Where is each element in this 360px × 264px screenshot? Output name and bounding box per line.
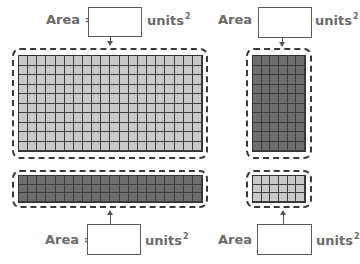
grid-cell — [165, 185, 174, 194]
grid-cell — [193, 104, 202, 114]
answer-box-top-left[interactable] — [88, 7, 142, 37]
grid-cell — [279, 75, 288, 85]
grid-cell — [279, 56, 288, 66]
grid-cell — [56, 66, 65, 76]
grid-cell — [253, 113, 262, 123]
grid-cell — [165, 132, 174, 142]
grid-cell — [74, 85, 83, 95]
grid-cell — [147, 193, 156, 202]
grid-cell — [279, 85, 288, 95]
grid-cell — [138, 142, 147, 152]
grid-cell — [184, 56, 193, 66]
grid-cell — [270, 56, 279, 66]
grid-cell — [56, 56, 65, 66]
grid-cell — [193, 94, 202, 104]
grid-cell — [296, 94, 305, 104]
answer-box-bottom-left[interactable] — [87, 224, 141, 255]
grid-cell — [296, 56, 305, 66]
grid-cell — [110, 132, 119, 142]
grid-cell — [253, 66, 262, 76]
grid-cell — [92, 132, 101, 142]
grid-cell — [92, 113, 101, 123]
grid-cell — [19, 142, 28, 152]
grid-cell — [74, 193, 83, 202]
grid-cell — [253, 85, 262, 95]
grid-cell — [270, 132, 279, 142]
grid-cell — [46, 123, 55, 133]
grid-cell — [83, 94, 92, 104]
grid-cell — [37, 185, 46, 194]
grid-cell — [19, 185, 28, 194]
grid-cell — [129, 142, 138, 152]
grid-cell — [101, 123, 110, 133]
grid-cell — [110, 85, 119, 95]
grid-cell — [92, 142, 101, 152]
answer-box-bottom-right[interactable] — [257, 224, 312, 255]
grid-cell — [138, 176, 147, 185]
grid-cell — [184, 113, 193, 123]
grid-cell — [296, 75, 305, 85]
grid-cell — [120, 132, 129, 142]
grid-cell — [296, 132, 305, 142]
grid-cell — [288, 193, 297, 202]
grid-cell — [19, 104, 28, 114]
grid-cell — [288, 85, 297, 95]
grid-top-right — [252, 55, 306, 152]
grid-cell — [46, 56, 55, 66]
grid-cell — [165, 104, 174, 114]
grid-cell — [147, 176, 156, 185]
grid-cell — [147, 94, 156, 104]
units-text: units — [145, 233, 182, 248]
grid-cell — [65, 113, 74, 123]
grid-cell — [270, 185, 279, 194]
grid-cell — [279, 193, 288, 202]
arrow-down-icon — [110, 37, 111, 45]
grid-cell — [270, 123, 279, 133]
grid-cell — [193, 56, 202, 66]
grid-cell — [56, 142, 65, 152]
grid-cell — [74, 104, 83, 114]
grid-cell — [83, 56, 92, 66]
grid-cell — [270, 75, 279, 85]
grid-cell — [147, 75, 156, 85]
grid-cell — [110, 142, 119, 152]
grid-cell — [92, 104, 101, 114]
grid-cell — [147, 66, 156, 76]
grid-cell — [279, 142, 288, 152]
grid-cell — [138, 193, 147, 202]
grid-cell — [129, 123, 138, 133]
grid-cell — [28, 185, 37, 194]
grid-cell — [262, 123, 271, 133]
grid-cell — [156, 66, 165, 76]
grid-cell — [184, 85, 193, 95]
grid-cell — [296, 113, 305, 123]
grid-cell — [262, 113, 271, 123]
grid-cell — [262, 132, 271, 142]
grid-cell — [156, 193, 165, 202]
grid-cell — [56, 193, 65, 202]
grid-cell — [65, 75, 74, 85]
grid-cell — [156, 75, 165, 85]
units-exponent: 2 — [354, 232, 360, 241]
grid-cell — [288, 142, 297, 152]
grid-cell — [262, 193, 271, 202]
grid-cell — [156, 113, 165, 123]
grid-cell — [74, 113, 83, 123]
grid-cell — [65, 66, 74, 76]
grid-cell — [110, 113, 119, 123]
grid-cell — [46, 132, 55, 142]
answer-box-top-right[interactable] — [258, 7, 312, 38]
grid-cell — [184, 176, 193, 185]
grid-cell — [129, 104, 138, 114]
grid-cell — [288, 123, 297, 133]
grid-cell — [74, 56, 83, 66]
grid-cell — [253, 94, 262, 104]
grid-cell — [28, 176, 37, 185]
grid-cell — [56, 85, 65, 95]
grid-cell — [101, 142, 110, 152]
grid-cell — [270, 142, 279, 152]
grid-cell — [184, 185, 193, 194]
grid-cell — [129, 185, 138, 194]
grid-cell — [175, 75, 184, 85]
grid-cell — [19, 113, 28, 123]
